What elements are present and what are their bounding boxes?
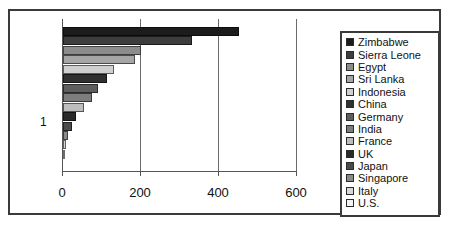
legend-item-label: France	[358, 135, 392, 147]
legend-item[interactable]: Japan	[346, 160, 434, 172]
legend-item[interactable]: U.S.	[346, 197, 434, 209]
legend-item[interactable]: China	[346, 98, 434, 110]
legend-swatch-icon	[346, 174, 354, 182]
bar-group	[63, 27, 296, 167]
x-tick-label: 600	[285, 185, 307, 200]
chart-frame: 1 0200400600 ZimbabweSierra LeoneEgyptSr…	[8, 9, 441, 215]
legend-swatch-icon	[346, 38, 354, 46]
legend-item[interactable]: Singapore	[346, 172, 434, 184]
x-tick-label: 400	[207, 185, 229, 200]
bar-singapore	[63, 131, 68, 140]
legend-item-label: Sierra Leone	[358, 49, 421, 61]
legend-item[interactable]: Zimbabwe	[346, 36, 434, 48]
legend-item[interactable]: Germany	[346, 110, 434, 122]
legend-swatch-icon	[346, 150, 354, 158]
gridline	[296, 19, 297, 172]
legend-swatch-icon	[346, 75, 354, 83]
legend-item-label: Indonesia	[358, 86, 406, 98]
x-tick	[140, 171, 141, 176]
x-axis-tick-labels: 0200400600	[62, 177, 296, 197]
plot-canvas	[62, 26, 296, 172]
legend-swatch-icon	[346, 199, 354, 207]
bar-china	[63, 74, 107, 83]
legend-item-label: Sri Lanka	[358, 73, 404, 85]
legend-item-label: Germany	[358, 111, 403, 123]
bar-u-s	[63, 150, 65, 159]
bar-italy	[63, 140, 66, 149]
legend-item[interactable]: India	[346, 123, 434, 135]
chart-legend: ZimbabweSierra LeoneEgyptSri LankaIndone…	[340, 31, 440, 217]
bar-germany	[63, 84, 98, 93]
bar-india	[63, 93, 92, 102]
x-tick-label: 200	[129, 185, 151, 200]
x-axis-line	[62, 171, 296, 172]
bar-indonesia	[63, 65, 114, 74]
legend-item-label: UK	[358, 148, 373, 160]
legend-swatch-icon	[346, 137, 354, 145]
legend-swatch-icon	[346, 113, 354, 121]
legend-swatch-icon	[346, 162, 354, 170]
legend-swatch-icon	[346, 51, 354, 59]
bar-france	[63, 103, 84, 112]
bar-sri-lanka	[63, 55, 135, 64]
legend-item-label: Zimbabwe	[358, 36, 409, 48]
legend-item-label: Singapore	[358, 172, 408, 184]
legend-swatch-icon	[346, 63, 354, 71]
x-tick	[62, 171, 63, 176]
legend-item[interactable]: France	[346, 135, 434, 147]
legend-item[interactable]: Indonesia	[346, 86, 434, 98]
chart-screenshot: 1 0200400600 ZimbabweSierra LeoneEgyptSr…	[0, 0, 457, 230]
bar-zimbabwe	[63, 27, 239, 36]
legend-item-label: India	[358, 123, 382, 135]
x-tick-label: 0	[58, 185, 65, 200]
legend-item[interactable]: Italy	[346, 185, 434, 197]
plot-area: 1 0200400600	[24, 21, 314, 191]
legend-item[interactable]: UK	[346, 148, 434, 160]
legend-item-label: U.S.	[358, 197, 379, 209]
legend-item[interactable]: Sierra Leone	[346, 48, 434, 60]
legend-item-label: Italy	[358, 185, 378, 197]
legend-swatch-icon	[346, 100, 354, 108]
legend-swatch-icon	[346, 88, 354, 96]
bar-egypt	[63, 46, 141, 55]
legend-item[interactable]: Sri Lanka	[346, 73, 434, 85]
legend-swatch-icon	[346, 125, 354, 133]
legend-item[interactable]: Egypt	[346, 61, 434, 73]
legend-item-label: China	[358, 98, 387, 110]
bar-japan	[63, 122, 72, 131]
legend-item-label: Japan	[358, 160, 388, 172]
legend-swatch-icon	[346, 187, 354, 195]
y-axis-tick-label: 1	[40, 115, 47, 129]
x-tick	[296, 171, 297, 176]
x-tick	[218, 171, 219, 176]
bar-sierra-leone	[63, 36, 192, 45]
bar-uk	[63, 112, 76, 121]
legend-item-label: Egypt	[358, 61, 386, 73]
